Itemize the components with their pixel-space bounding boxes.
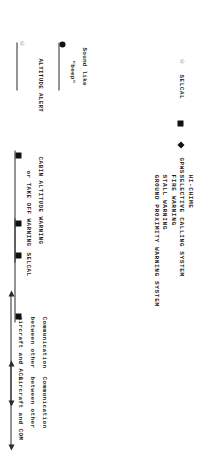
system-list-item-0: HI-CHIME: [184, 174, 193, 306]
arrow-left-icon: [8, 290, 14, 296]
segment-comm-com: Communication between other aircraft and…: [7, 360, 129, 458]
segment-altitude-alert: Sound like "beep" ALTITUDE ALERT ☆: [7, 36, 87, 132]
star-icon: ☆: [176, 58, 185, 63]
segment-caption-line-0: Sound like: [78, 47, 87, 85]
segment-caption-line-1: between other: [26, 376, 35, 428]
diamond-icon: [177, 141, 184, 148]
system-list: HI-CHIME SELECTIVE CALLING SYSTEM FIRE W…: [150, 174, 193, 306]
segment-caption-line-0: SELCAL: [22, 252, 31, 276]
diagram-sheet: ☆ SELCAL GPWS HI-CHIME SELECTIVE CALLING…: [0, 0, 199, 458]
timeline-rule: [58, 42, 59, 90]
legend-item-label-0: SELCAL: [177, 74, 184, 99]
timeline-rule-secondary: [16, 42, 17, 90]
segment-secondary-caption: ALTITUDE ALERT: [34, 58, 43, 112]
timeline-rule: [10, 364, 11, 448]
system-list-item-3: STALL WARNING: [159, 174, 168, 306]
segment-caption-line-1: "beep": [66, 60, 75, 83]
system-list-item-1: SELECTIVE CALLING SYSTEM: [176, 174, 185, 306]
square-icon: [178, 120, 184, 126]
system-list-item-2: FIRE WARNING: [167, 174, 176, 306]
legend-item-label-2: GPWS: [177, 157, 184, 173]
star-icon: ☆: [16, 40, 25, 45]
circle-icon: [59, 41, 65, 47]
segment-caption-line-2: aircraft and COM: [14, 376, 23, 440]
arrow-left-icon: [8, 360, 14, 366]
system-list-item-4: GROUND PROXIMITY WARNING SYSTEM: [150, 174, 159, 306]
segment-caption-line-0: Communication: [38, 376, 47, 428]
square-icon-start: [16, 152, 22, 158]
square-icon-start: [16, 220, 22, 226]
arrow-right-icon: [8, 444, 14, 450]
